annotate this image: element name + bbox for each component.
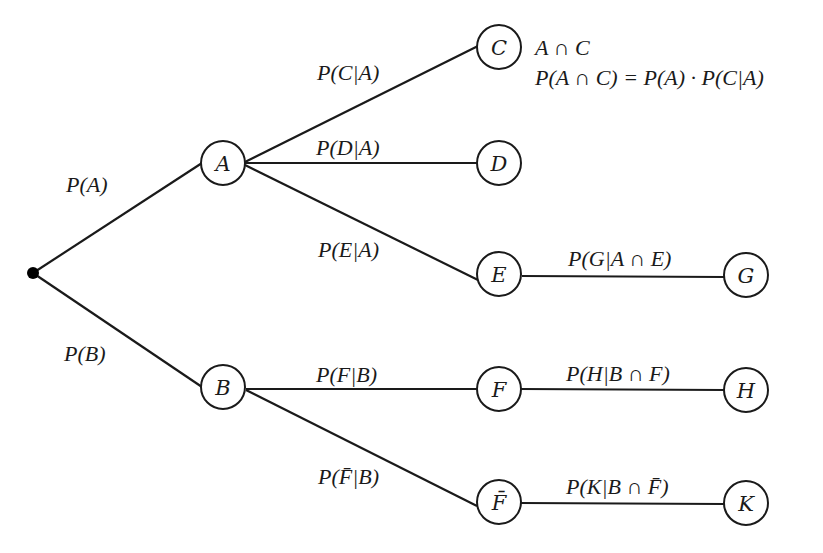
- node-G-label: G: [738, 264, 755, 288]
- node-F-bar: F̄: [477, 480, 521, 524]
- node-A-label: A: [213, 152, 230, 176]
- probability-tree-diagram: A B C D E F F̄ G H K P(A) P(B) P(C|A) P(…: [0, 0, 823, 553]
- edge-label-P-A: P(A): [65, 172, 108, 197]
- edge-label-P-E-given-A: P(E|A): [317, 237, 379, 262]
- node-K-label: K: [737, 492, 755, 516]
- node-C-label: C: [491, 36, 507, 60]
- node-B: B: [201, 365, 245, 409]
- edge-label-P-B: P(B): [63, 341, 106, 366]
- edge-root-A: [33, 163, 202, 273]
- edge-E-G: [522, 276, 724, 277]
- root-node-dot: [27, 267, 39, 279]
- node-C: C: [477, 25, 521, 69]
- edge-Fbar-K: [521, 503, 724, 504]
- node-F-bar-label: F̄: [491, 490, 508, 515]
- node-D: D: [477, 141, 521, 185]
- edge-label-P-F-given-B: P(F|B): [315, 362, 377, 387]
- edge-root-B: [33, 273, 202, 387]
- edges: [33, 46, 724, 506]
- node-A: A: [201, 141, 245, 185]
- edge-A-E: [245, 165, 478, 280]
- node-D-label: D: [490, 152, 508, 176]
- node-B-label: B: [214, 376, 230, 400]
- edge-label-P-C-given-A: P(C|A): [316, 60, 379, 85]
- edge-F-H: [521, 389, 724, 390]
- edge-label-P-Fbar-given-B: P(F̄|B): [317, 464, 379, 489]
- node-K: K: [724, 481, 768, 525]
- node-E-label: E: [490, 263, 506, 287]
- edge-label-P-G-given-A-and-E: P(G|A ∩ E): [567, 246, 671, 271]
- node-H: H: [724, 368, 768, 412]
- node-F: F: [477, 367, 521, 411]
- node-H-label: H: [736, 379, 756, 403]
- node-E: E: [477, 252, 521, 296]
- edge-label-P-K-given-B-and-Fbar: P(K|B ∩ F̄): [565, 474, 669, 499]
- edge-label-P-D-given-A: P(D|A): [315, 135, 379, 160]
- node-G: G: [724, 253, 768, 297]
- annotation-formula-P-A-and-C: P(A ∩ C) = P(A) · P(C|A): [534, 65, 764, 90]
- annotation-event-A-and-C: A ∩ C: [533, 35, 590, 60]
- node-F-label: F: [491, 378, 508, 402]
- edge-label-P-H-given-B-and-F: P(H|B ∩ F): [565, 361, 670, 386]
